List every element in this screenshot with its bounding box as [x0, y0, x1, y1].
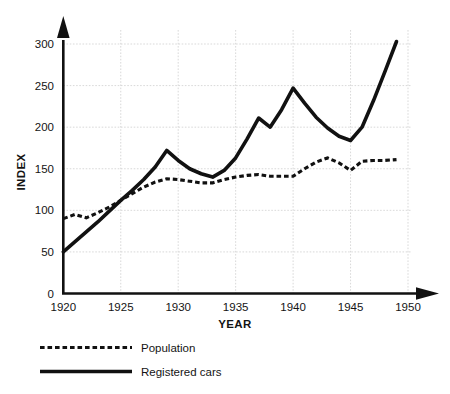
- x-tick-label-1935: 1935: [223, 301, 249, 313]
- x-axis-arrow: [416, 287, 439, 300]
- legend-label-registered-cars: Registered cars: [141, 366, 222, 378]
- x-tick-label-1920: 1920: [51, 301, 77, 313]
- y-tick-label-200: 200: [35, 121, 54, 133]
- horizontal-gridlines: [63, 44, 412, 252]
- x-tick-label-1950: 1950: [395, 301, 421, 313]
- y-tick-label-250: 250: [35, 80, 54, 92]
- x-axis-title: YEAR: [218, 318, 252, 330]
- line-chart: 050100150200250300 192019251930193519401…: [0, 0, 450, 394]
- y-axis-arrow: [57, 16, 70, 38]
- x-tick-label-1940: 1940: [280, 301, 306, 313]
- y-tick-label-150: 150: [35, 163, 54, 175]
- y-tick-labels: 050100150200250300: [35, 38, 54, 300]
- x-tick-labels: 1920192519301935194019451950: [51, 301, 421, 313]
- y-tick-label-50: 50: [41, 246, 54, 258]
- legend-label-population: Population: [141, 342, 195, 354]
- x-tick-label-1925: 1925: [108, 301, 134, 313]
- x-tick-label-1945: 1945: [338, 301, 364, 313]
- y-tick-label-100: 100: [35, 204, 54, 216]
- series-line-registered-cars: [63, 42, 396, 252]
- y-tick-label-300: 300: [35, 38, 54, 50]
- legend: Population Registered cars: [40, 342, 222, 378]
- y-tick-label-0: 0: [48, 288, 54, 300]
- y-axis-title: INDEX: [15, 153, 27, 190]
- chart-figure: 050100150200250300 192019251930193519401…: [0, 0, 450, 394]
- x-tick-label-1930: 1930: [165, 301, 191, 313]
